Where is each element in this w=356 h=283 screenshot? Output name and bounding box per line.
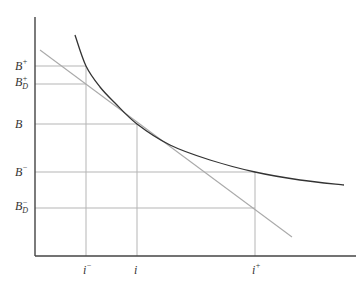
y-label-b: B (15, 118, 22, 130)
y-label-b-minus: B− (15, 166, 28, 178)
y-label-b-d-plus: B+D (15, 75, 28, 91)
y-label-b-plus: B+ (15, 60, 28, 72)
x-label-i-plus: i+ (252, 264, 261, 276)
x-label-i: i (134, 264, 137, 276)
x-label-i-minus: i− (83, 264, 92, 276)
price-yield-diagram (0, 0, 356, 283)
y-label-b-d-minus: B−D (15, 199, 28, 215)
price-yield-curve (75, 35, 344, 185)
guide-lines (35, 66, 255, 256)
